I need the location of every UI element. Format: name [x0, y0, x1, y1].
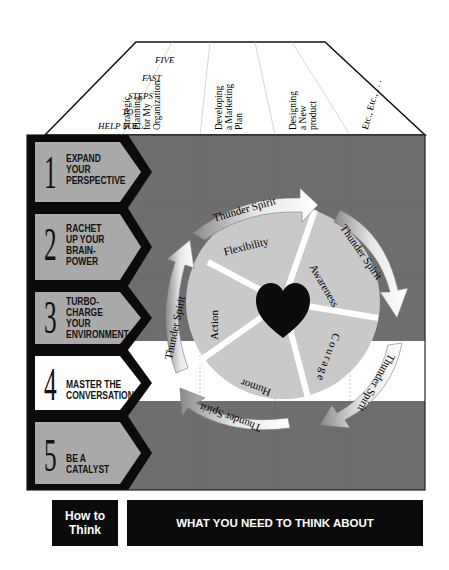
step-number: 2	[44, 222, 57, 268]
step-label-line: YOUR	[66, 318, 129, 329]
step-label-line: BRAIN-	[66, 245, 104, 256]
header-column-strategic: Strategic Planning for My Organization	[122, 81, 162, 130]
header-column-line: Planning	[132, 81, 142, 130]
header-intro-line: FIVE	[155, 55, 175, 65]
header-column-line: Designing	[288, 91, 298, 130]
header-column-line: Developing	[214, 84, 224, 130]
header-column-line: Plan	[234, 84, 244, 130]
step-number: 4	[44, 362, 57, 408]
step-label-line: CONVERSATION	[66, 390, 134, 401]
header-column-line: Strategic	[122, 81, 132, 130]
how-to-think-line: How to	[65, 509, 105, 523]
step-number: 1	[44, 150, 57, 196]
header-column-product: Designing a New product	[288, 91, 318, 130]
what-you-need-label: WHAT YOU NEED TO THINK ABOUT	[127, 500, 423, 546]
step-label-line: TURBO-	[66, 296, 129, 307]
step-label-line: CHARGE	[66, 307, 129, 318]
step-label-line: CATALYST	[66, 464, 109, 475]
step-label-line: ENVIRONMENT	[66, 329, 129, 340]
header-column-line: for My	[142, 81, 152, 130]
header-column-line: a Marketing	[224, 84, 234, 130]
what-you-need-text: WHAT YOU NEED TO THINK ABOUT	[176, 517, 374, 529]
step-label-2: RACHET UP YOUR BRAIN- POWER	[66, 223, 104, 267]
header-column-line: product	[308, 91, 318, 130]
step-label-5: BE A CATALYST	[66, 453, 109, 475]
how-to-think-label: How to Think	[52, 500, 118, 546]
step-label-line: POWER	[66, 256, 104, 267]
step-label-4: MASTER THE CONVERSATION	[66, 379, 134, 401]
header-column-line: a New	[298, 91, 308, 130]
step-label-line: YOUR	[66, 164, 126, 175]
step-label-3: TURBO- CHARGE YOUR ENVIRONMENT	[66, 296, 129, 340]
step-number: 3	[44, 295, 57, 341]
step-label-line: RACHET	[66, 223, 104, 234]
step-number: 5	[44, 433, 57, 479]
step-label-line: MASTER THE	[66, 379, 134, 390]
header-column-line: Organization	[152, 81, 162, 130]
header-column-marketing: Developing a Marketing Plan	[214, 84, 244, 130]
how-to-think-line: Think	[69, 523, 101, 537]
step-label-line: UP YOUR	[66, 234, 104, 245]
step-label-1: EXPAND YOUR PERSPECTIVE	[66, 153, 126, 186]
segment-action: Action	[208, 310, 220, 340]
step-label-line: EXPAND	[66, 153, 126, 164]
step-label-line: BE A	[66, 453, 109, 464]
step-label-line: PERSPECTIVE	[66, 175, 126, 186]
